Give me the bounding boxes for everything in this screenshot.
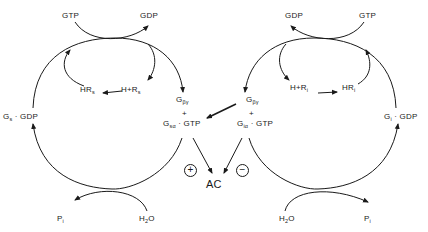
- left-hydrolysis-arc: [33, 124, 182, 189]
- right-h2o-label: H2O: [279, 215, 295, 224]
- left-plus: +: [182, 110, 187, 118]
- left-receptor-arrow-up: [64, 50, 84, 86]
- left-pi-h2o-arrow: [75, 191, 147, 211]
- right-receptor-arrow-right: [318, 92, 337, 93]
- left-g-beta-gamma: Gβγ: [176, 96, 189, 105]
- left-pi-label: Pi: [57, 215, 64, 224]
- left-gdp-label: GDP: [140, 12, 158, 20]
- left-hr-complex-label: HRs: [80, 86, 95, 95]
- left-gtp-label: GTP: [62, 12, 79, 20]
- right-gdp-label: GDP: [285, 12, 303, 20]
- right-inactive-gi-gdp: Gi · GDP: [384, 113, 418, 122]
- stimulation-plus-icon: +: [184, 164, 197, 177]
- left-inactive-gs-gdp: Gs · GDP: [3, 113, 38, 122]
- diagram-arrows: [0, 0, 428, 232]
- left-activation-arc: [33, 38, 183, 108]
- right-receptor-arrow-up: [358, 50, 370, 84]
- left-active-gsa-gtp: Gsα · GTP: [163, 120, 201, 129]
- left-receptor-arrow-down: [148, 44, 155, 80]
- right-h-plus-r-label: H+Ri: [290, 84, 308, 93]
- left-h2o-label: H2O: [139, 215, 155, 224]
- right-hr-complex-label: HRi: [342, 84, 355, 93]
- right-active-gia-gtp: Giα · GTP: [237, 120, 273, 129]
- right-activation-arc: [245, 38, 396, 108]
- inhibition-minus-icon: −: [236, 164, 249, 177]
- right-gtp-gdp-arrow: [291, 22, 364, 39]
- right-hydrolysis-arc: [249, 124, 398, 189]
- left-gtp-gdp-arrow: [75, 22, 148, 39]
- adenylyl-cyclase-label: AC: [206, 179, 222, 190]
- beta-gamma-transfer-arrow: [207, 104, 236, 118]
- left-h-plus-r-label: H+Rs: [121, 86, 141, 95]
- right-receptor-arrow-down: [280, 44, 289, 80]
- right-pi-label: Pi: [364, 215, 371, 224]
- left-receptor-arrow-left: [103, 91, 122, 93]
- right-g-beta-gamma: Gβγ: [246, 96, 259, 105]
- right-gtp-label: GTP: [359, 12, 376, 20]
- right-pi-h2o-arrow: [285, 192, 368, 211]
- right-plus: +: [249, 110, 254, 118]
